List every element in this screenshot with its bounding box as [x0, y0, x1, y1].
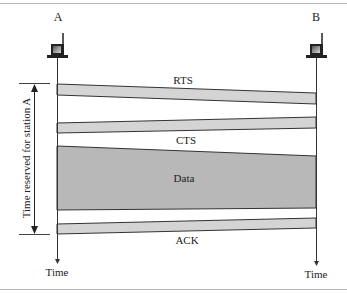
station-a-label: A — [54, 11, 63, 23]
station-a-time-arrowhead — [55, 259, 60, 264]
station-b-label: B — [312, 11, 320, 23]
station-b-computer-icon — [306, 33, 327, 58]
cts-frame-band — [57, 117, 316, 133]
reserved-time-label: Time reserved for station A — [20, 98, 32, 219]
rts-frame-band — [57, 84, 316, 104]
station-a-computer-icon — [47, 33, 68, 58]
cts-label: CTS — [176, 134, 196, 146]
ack-frame-band — [57, 218, 316, 234]
rts-label: RTS — [173, 74, 193, 86]
data-label: Data — [174, 172, 195, 184]
time-axis-label-b: Time — [305, 268, 328, 280]
time-axis-label-a: Time — [46, 266, 69, 278]
diagram-canvas: A B RTS CTS Data ACK Time reserved for s… — [0, 0, 347, 294]
ack-label: ACK — [175, 234, 198, 246]
station-b-time-arrowhead — [314, 261, 319, 266]
timeline-graphic — [0, 0, 347, 294]
